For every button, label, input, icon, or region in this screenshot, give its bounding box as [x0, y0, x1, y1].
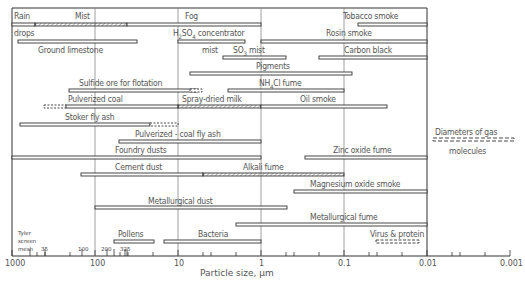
- bar-sulfide-ore-dashed: [190, 89, 202, 92]
- x-axis-label: Particle size, μm: [200, 268, 274, 278]
- label-carbon-black: Carbon black: [344, 45, 392, 55]
- label-foundry-dusts: Foundry dusts: [115, 145, 167, 155]
- label-sulfide-ore: Sulfide ore for flotation: [79, 78, 162, 88]
- bar-carbon-black: [319, 56, 427, 59]
- bar-sulfide-ore: [69, 89, 197, 92]
- bar-mist-plain: [127, 23, 261, 26]
- bar-pollens: [114, 240, 154, 243]
- bar-spray-dried-milk: [178, 105, 261, 108]
- label-pc-fly-ash: Pulverized - coal fly ash: [135, 129, 221, 139]
- label-bacteria: Bacteria: [198, 229, 228, 239]
- bar-rosin-smoke: [261, 40, 427, 43]
- bar-pigments: [190, 72, 352, 75]
- label-virus-protein: Virus & protein: [370, 229, 424, 239]
- bar-zinc-oxide-fume: [305, 156, 427, 159]
- label-spray-dried-milk: Spray-dried milk: [182, 94, 242, 104]
- label-zinc-oxide-fume: Zinc oxide fume: [333, 145, 392, 155]
- tick-1000: 1000: [5, 259, 25, 268]
- label-h2so4-concentrator: H2SO4 concentrator: [173, 28, 244, 42]
- bar-alkali-fume: [203, 173, 344, 176]
- bar-mist: [35, 23, 127, 26]
- bar-metallurgical-dust: [95, 206, 287, 209]
- label-fog: Fog: [185, 11, 198, 21]
- label-tyler: Tyler: [18, 230, 31, 236]
- label-alkali-fume: Alkali fume: [243, 162, 284, 172]
- particle-size-chart: Rain drops Mist Fog Tobacco smoke Ground…: [0, 0, 525, 282]
- bar-gas-molecules: [433, 138, 514, 141]
- tick-0-1: 0.1: [338, 259, 351, 268]
- tick-0-01: 0.01: [419, 259, 437, 268]
- mesh-100: 100: [78, 246, 89, 252]
- label-cement-dust: Cement dust: [115, 162, 162, 172]
- bar-ground-limestone: [18, 40, 137, 43]
- bar-cement-dust: [81, 173, 203, 176]
- bar-metallurgical-fume: [236, 223, 427, 226]
- label-mesh: mesh: [18, 246, 33, 252]
- bar-pulverized-coal: [66, 105, 178, 108]
- label-mist: Mist: [75, 11, 90, 21]
- mesh-35: 35: [41, 246, 48, 252]
- label-ground-limestone: Ground limestone: [38, 45, 103, 55]
- tick-1: 1: [259, 259, 264, 268]
- label-drops: drops: [14, 28, 34, 38]
- label-pollens: Pollens: [118, 229, 143, 239]
- mesh-325: 325: [120, 246, 131, 252]
- label-metallurgical-fume: Metallurgical fume: [310, 212, 378, 222]
- bar-stoker-fly-ash: [20, 123, 150, 126]
- label-stoker-fly-ash: Stoker fly ash: [65, 112, 114, 122]
- label-metallurgical-dust: Metallurgical dust: [148, 196, 213, 206]
- label-gas-molecules-2: molecules: [449, 146, 486, 156]
- bar-pc-fly-ash: [119, 140, 261, 143]
- bar-virus-protein: [376, 240, 419, 243]
- chart-graphics: [0, 0, 525, 282]
- label-so3-mist: SO3 mist: [233, 45, 265, 59]
- mesh-200: 200: [101, 246, 112, 252]
- label-mgo-smoke: Magnesium oxide smoke: [310, 179, 400, 189]
- bar-tobacco-smoke: [358, 23, 427, 26]
- bar-oil-smoke: [261, 105, 387, 108]
- bar-foundry-dusts: [12, 156, 261, 159]
- bar-bacteria: [164, 240, 261, 243]
- label-nh4cl-fume: NH4Cl fume: [259, 78, 302, 92]
- tick-10: 10: [174, 259, 184, 268]
- bar-mgo-smoke: [294, 190, 427, 193]
- bar-stoker-fly-ash-dashed: [150, 123, 178, 126]
- bar-rain-drops: [12, 23, 35, 26]
- label-rain: Rain: [14, 11, 30, 21]
- label-tobacco-smoke: Tobacco smoke: [343, 11, 398, 21]
- label-h2so4-mist: mist: [202, 45, 218, 55]
- label-pulverized-coal: Pulverized coal: [68, 94, 123, 104]
- label-screen: screen: [18, 238, 36, 244]
- label-gas-molecules-1: Diameters of gas: [435, 127, 497, 137]
- bar-pulverized-coal-dashed: [44, 105, 66, 108]
- label-oil-smoke: Oil smoke: [300, 94, 336, 104]
- tick-0-001: 0.001: [500, 259, 523, 268]
- label-rosin-smoke: Rosin smoke: [326, 28, 372, 38]
- tick-100: 100: [90, 259, 105, 268]
- label-pigments: Pigments: [256, 61, 290, 71]
